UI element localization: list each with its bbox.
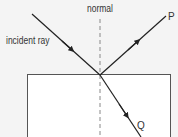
ray-lines <box>0 0 178 137</box>
incident-ray-label: incident ray <box>6 36 49 46</box>
normal-label: normal <box>87 4 113 14</box>
incident-ray-arrow-icon <box>62 41 72 50</box>
refracted-ray-arrow-icon <box>119 104 127 116</box>
point-p-label: P <box>168 12 175 22</box>
ray-diagram: incident ray normal P Q <box>0 0 178 137</box>
reflected-ray-arrow-icon <box>128 41 138 50</box>
point-q-label: Q <box>137 121 145 131</box>
